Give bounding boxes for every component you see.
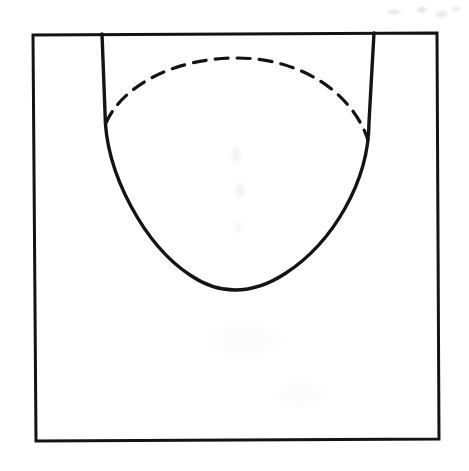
dashed-circle-arc xyxy=(106,58,368,140)
geometry-diagram: Hand-drawn geometric diagram A square fr… xyxy=(0,0,469,471)
figure-canvas: Hand-drawn geometric diagram A square fr… xyxy=(0,0,469,471)
outer-square-frame xyxy=(33,33,439,441)
solid-u-curve xyxy=(102,33,374,290)
